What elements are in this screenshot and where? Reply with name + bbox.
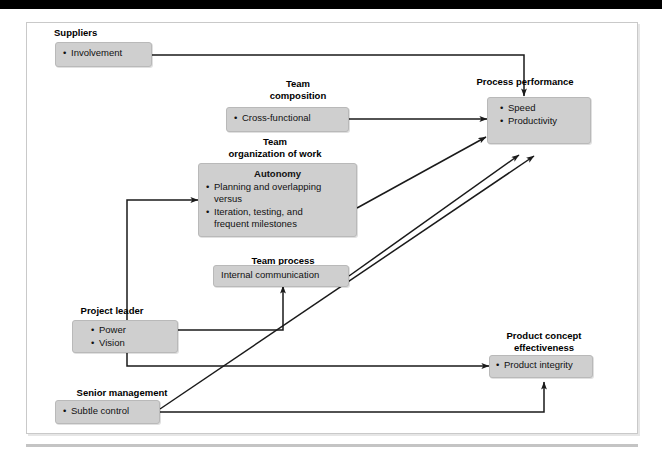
node-team-composition[interactable]: Cross-functional <box>226 107 349 132</box>
node-item: Vision <box>91 337 159 350</box>
figure-bottom-rule <box>26 444 638 447</box>
node-team-process[interactable]: Internal communication #page [data-name=… <box>213 265 349 287</box>
node-item: Power <box>91 324 159 337</box>
caption-suppliers: Suppliers <box>54 27 174 39</box>
node-item-line1: Planning and overlapping <box>214 181 321 192</box>
caption-team-organization-of-work: Team organization of work <box>190 136 360 159</box>
page-top-black-bar <box>0 0 662 9</box>
node-item-line2: frequent milestones <box>214 218 349 231</box>
caption-senior-management: Senior management <box>52 387 192 399</box>
caption-project-leader: Project leader <box>57 305 167 317</box>
node-senior-management[interactable]: Subtle control <box>55 400 160 424</box>
node-item: Speed <box>500 102 578 115</box>
node-item-line1: Iteration, testing, and <box>214 206 303 217</box>
node-suppliers[interactable]: Involvement <box>55 42 152 67</box>
node-item: Iteration, testing, and frequent milesto… <box>206 206 349 231</box>
node-item: Involvement <box>63 47 144 60</box>
caption-team-composition: Team composition <box>238 78 358 101</box>
figure-canvas: Suppliers Team composition Team organiza… <box>0 0 662 457</box>
node-team-organization-of-work[interactable]: Autonomy Planning and overlapping versus… <box>198 163 357 237</box>
node-title: Autonomy <box>206 168 349 181</box>
caption-product-concept-effectiveness: Product concept effectiveness <box>474 330 614 353</box>
node-product-concept-effectiveness[interactable]: Product integrity <box>489 355 593 378</box>
node-item-line2: versus <box>214 193 349 206</box>
node-item: Product integrity <box>496 359 586 372</box>
caption-process-performance: Process performance <box>455 76 595 88</box>
node-item: Productivity <box>500 115 578 128</box>
node-process-performance[interactable]: Speed Productivity <box>487 97 591 144</box>
node-project-leader[interactable]: Power Vision <box>72 320 178 353</box>
node-item: Internal communication <box>221 269 341 282</box>
node-item: Subtle control <box>63 405 152 418</box>
node-item: Cross-functional <box>234 112 341 125</box>
node-item: Planning and overlapping versus <box>206 181 349 206</box>
